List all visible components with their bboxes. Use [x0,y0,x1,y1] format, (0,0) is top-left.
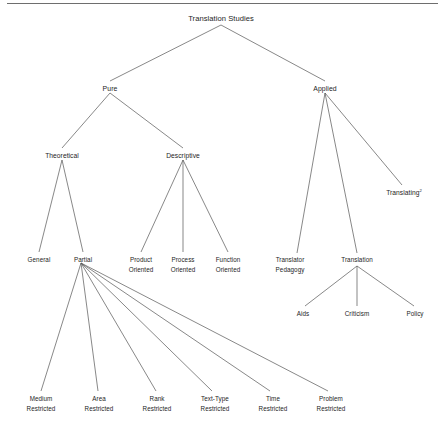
node-label: Translating [386,189,419,196]
node-label-line1: Process [171,255,196,265]
node-area-restricted: Area Restricted [85,394,114,413]
node-translation-studies: Translation Studies [188,14,254,24]
node-problem-restricted: Problem Restricted [317,394,346,413]
node-label: Policy [406,309,423,319]
node-label: Translation [341,255,372,265]
node-translation: Translation [341,255,372,265]
node-label-line1: Rank [143,394,172,404]
node-aids: Aids [297,309,309,319]
node-applied: Applied [313,84,336,94]
node-label: Partial [74,255,92,265]
node-label: Aids [297,309,309,319]
node-label-line2: Restricted [201,404,230,414]
node-label: Translation Studies [188,14,254,24]
node-label-line1: Function [216,255,241,265]
node-partial: Partial [74,255,92,265]
node-general: General [28,255,51,265]
node-label: General [28,255,51,265]
node-translating: Translating2 [386,188,422,198]
footnote-marker: 2 [420,188,422,193]
node-label-line1: Area [85,394,114,404]
node-label-line2: Restricted [27,404,56,414]
node-theoretical: Theoretical [45,151,79,161]
node-product-oriented: Product Oriented [129,255,154,274]
node-label: Theoretical [45,151,79,161]
translation-studies-diagram: Translation Studies Pure Applied Theoret… [0,0,445,431]
node-text-type-restricted: Text-Type Restricted [201,394,230,413]
node-label-line1: Time [259,394,288,404]
node-pure: Pure [103,84,118,94]
node-rank-restricted: Rank Restricted [143,394,172,413]
node-label: Criticism [345,309,370,319]
node-label-line1: Translator [276,255,305,265]
node-label: Applied [313,84,336,94]
node-criticism: Criticism [345,309,370,319]
node-label-line1: Text-Type [201,394,230,404]
node-policy: Policy [406,309,423,319]
node-medium-restricted: Medium Restricted [27,394,56,413]
node-label-line1: Problem [317,394,346,404]
node-label-line1: Product [129,255,154,265]
node-time-restricted: Time Restricted [259,394,288,413]
node-label: Pure [103,84,118,94]
node-descriptive: Descriptive [166,151,200,161]
node-label-line2: Restricted [85,404,114,414]
node-label-line2: Restricted [259,404,288,414]
node-process-oriented: Process Oriented [171,255,196,274]
node-label-line2: Oriented [171,265,196,275]
node-function-oriented: Function Oriented [216,255,241,274]
node-translator-pedagogy: Translator Pedagogy [276,255,305,274]
node-label-line2: Restricted [317,404,346,414]
node-label-line1: Medium [27,394,56,404]
node-label-line2: Oriented [129,265,154,275]
node-label-line2: Restricted [143,404,172,414]
node-layer: Translation Studies Pure Applied Theoret… [0,0,445,431]
node-label: Descriptive [166,151,200,161]
node-label-line2: Oriented [216,265,241,275]
node-label-line2: Pedagogy [276,265,305,275]
